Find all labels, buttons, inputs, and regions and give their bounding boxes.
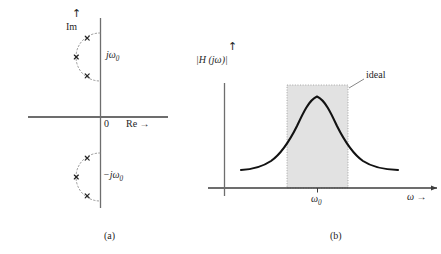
signal-processing-figure [0, 0, 441, 254]
panel-b-magnitude-response [208, 79, 437, 196]
re-axis-label: Re → [126, 119, 150, 129]
lower-pole-cluster-label-subscript: 0 [120, 175, 124, 183]
upper-pole-markers [74, 36, 89, 78]
omega-axis-label: ω → [407, 192, 427, 202]
panel-a-caption: (a) [104, 231, 115, 241]
ideal-band-label: ideal [366, 70, 385, 80]
lower-pole-cluster-label: −jω0 [103, 170, 123, 183]
magnitude-axis-label: |H (jω)| [196, 55, 228, 65]
upper-pole-cluster-label-text: jω [106, 49, 116, 60]
upper-pole-cluster-label-subscript: 0 [116, 55, 120, 63]
omega-axis-arrowhead [431, 186, 437, 191]
im-axis-label: Im [66, 22, 77, 32]
magnitude-axis-arrow: ↑ [228, 41, 237, 52]
panel-b-caption: (b) [330, 231, 342, 241]
omega0-tick-label: ω0 [311, 194, 322, 207]
ideal-leader-line [349, 79, 364, 88]
upper-pole-arc [76, 33, 100, 81]
im-axis-arrow: ↑ [72, 8, 81, 19]
omega0-tick-label-text: ω [311, 193, 318, 204]
omega0-tick-label-subscript: 0 [318, 199, 322, 207]
upper-pole-cluster-label: jω0 [106, 50, 119, 63]
lower-pole-arc [76, 153, 100, 201]
ideal-band-region [287, 85, 348, 188]
panel-a-pole-zero-plot [28, 18, 168, 208]
origin-label: 0 [104, 119, 109, 129]
lower-pole-markers [74, 156, 89, 198]
lower-pole-cluster-label-text: −jω [103, 169, 120, 180]
